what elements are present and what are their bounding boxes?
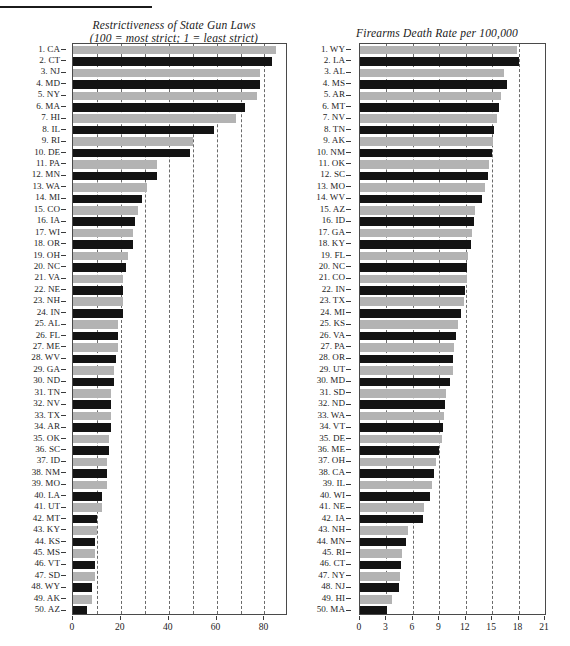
category-label: 32. ND: [318, 399, 345, 409]
x-tick-label: 21: [539, 621, 549, 632]
category-tick: [346, 541, 351, 542]
category-label: 6. MT: [322, 102, 345, 112]
category-label: 48. NJ: [321, 582, 345, 592]
x-tick-label: 40: [163, 621, 173, 632]
bar: [73, 332, 118, 341]
bar: [73, 137, 193, 146]
bar-row: [73, 342, 286, 353]
bar: [360, 80, 507, 89]
category-tick: [61, 335, 66, 336]
category-label: 46. VT: [34, 559, 60, 569]
category-tick: [346, 312, 351, 313]
x-tick: [518, 616, 519, 620]
bar: [73, 252, 128, 261]
category-label: 12. MN: [32, 170, 60, 180]
x-tick-label: 18: [513, 621, 523, 632]
bar: [360, 240, 471, 249]
category-label: 41. UT: [34, 502, 60, 512]
bar-row: [73, 148, 286, 159]
category-label: 36. SC: [35, 445, 60, 455]
bar-row: [73, 239, 286, 250]
bar: [73, 435, 109, 444]
bar: [73, 126, 214, 135]
category-label: 18. KY: [318, 239, 345, 249]
x-tick: [544, 616, 545, 620]
bar-row: [360, 125, 545, 136]
bar-row: [360, 445, 545, 456]
bar-row: [360, 136, 545, 147]
category-label: 28. OR: [319, 353, 345, 363]
bar: [73, 46, 276, 55]
bar-row: [360, 605, 545, 615]
category-tick: [61, 392, 66, 393]
category-label: 22. IN: [322, 285, 345, 295]
chart-title-firearms-death-rate: Firearms Death Rate per 100,000: [306, 27, 568, 40]
bar: [360, 355, 453, 364]
bar: [73, 469, 107, 478]
bar-row: [360, 170, 545, 181]
bar-row: [360, 571, 545, 582]
category-label: 6. MA: [36, 102, 60, 112]
category-tick: [346, 415, 351, 416]
category-tick: [61, 598, 66, 599]
category-label: 25. AL: [35, 319, 60, 329]
bar-row: [73, 228, 286, 239]
category-label: 1. CA: [38, 45, 60, 55]
bar: [360, 435, 442, 444]
category-label: 46. CT: [320, 559, 345, 569]
bar: [73, 423, 111, 432]
category-tick: [61, 186, 66, 187]
category-tick: [61, 221, 66, 222]
category-tick: [346, 243, 351, 244]
bar: [360, 549, 402, 558]
bar: [360, 114, 497, 123]
bar: [73, 400, 111, 409]
bar: [360, 229, 472, 238]
bar-row: [360, 251, 545, 262]
category-label: 27. ME: [33, 342, 60, 352]
bar-row: [73, 79, 286, 90]
category-tick: [61, 243, 66, 244]
bar: [73, 366, 114, 375]
category-tick: [346, 495, 351, 496]
bar: [360, 481, 432, 490]
category-label: 27. PA: [321, 342, 345, 352]
category-tick: [61, 610, 66, 611]
category-tick: [346, 106, 351, 107]
category-tick: [346, 449, 351, 450]
category-tick: [61, 484, 66, 485]
bar: [360, 252, 468, 261]
x-tick: [465, 616, 466, 620]
chart-title-restrictiveness: Restrictiveness of State Gun Laws (100 =…: [58, 19, 290, 44]
bar-row: [360, 148, 545, 159]
bar-row: [360, 514, 545, 525]
category-label: 11. OK: [319, 159, 345, 169]
bar-row: [73, 594, 286, 605]
bar-row: [73, 502, 286, 513]
bar: [360, 572, 400, 581]
bar-row: [360, 594, 545, 605]
bar-row: [360, 296, 545, 307]
bar: [73, 503, 102, 512]
category-tick: [61, 60, 66, 61]
category-tick: [346, 118, 351, 119]
bar-row: [360, 182, 545, 193]
category-tick: [61, 255, 66, 256]
category-label: 36. ME: [318, 445, 345, 455]
category-tick: [61, 564, 66, 565]
category-tick: [61, 312, 66, 313]
bar-row: [360, 456, 545, 467]
category-tick: [61, 141, 66, 142]
category-label: 19. FL: [321, 251, 345, 261]
category-tick: [61, 587, 66, 588]
bar: [360, 446, 439, 455]
category-label: 1. WY: [321, 45, 345, 55]
bar-row: [360, 537, 545, 548]
category-tick: [61, 472, 66, 473]
plot-area-restrictiveness: [72, 43, 287, 615]
category-label: 32. NV: [33, 399, 60, 409]
category-tick: [346, 358, 351, 359]
bar-row: [360, 228, 545, 239]
bar: [73, 458, 107, 467]
bar: [360, 412, 444, 421]
